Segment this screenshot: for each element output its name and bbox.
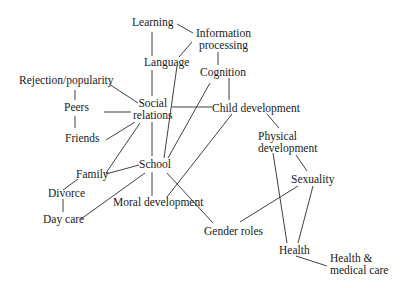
node-label: Rejection/popularity [19,74,114,86]
node-physical-development: Physical development [258,130,317,154]
edge-social-relations-family [106,123,140,173]
node-sexuality: Sexuality [291,173,334,185]
edge-cognition-school [168,83,210,158]
node-rejection-popularity: Rejection/popularity [19,74,114,86]
edge-child-development-moral-development [167,114,232,197]
concept-diagram: Learning Information processing Language… [0,0,401,288]
node-label: Sexuality [291,173,334,185]
node-label-line1: Physical [258,130,317,142]
node-label: Family [76,168,109,180]
edge-physical-development-health [273,153,287,243]
node-label-line2: processing [196,39,251,51]
node-information-processing: Information processing [196,27,251,51]
node-label: School [139,158,171,170]
node-language: Language [144,56,189,68]
edge-sexuality-gender-roles [240,186,298,222]
edge-sexuality-health [298,186,313,243]
node-social-relations: Social relations [133,97,173,121]
node-label-line1: Information [196,27,251,39]
node-label: Learning [132,16,174,28]
node-day-care: Day care [43,213,84,225]
node-label: Day care [43,213,84,225]
node-label: Cognition [200,66,246,78]
node-peers: Peers [64,101,89,113]
node-label: Divorce [48,187,85,199]
node-label: Peers [64,101,89,113]
node-label-line1: Social [133,97,173,109]
node-school: School [139,158,171,170]
edge-physical-development-sexuality [296,155,307,171]
edge-information-processing-school [179,42,192,57]
node-label-line1: Health & [330,252,388,264]
node-label: Health [279,244,310,256]
node-gender-roles: Gender roles [204,225,263,237]
node-label-line2: medical care [330,264,388,276]
node-label-line2: development [258,142,317,154]
node-label: Gender roles [204,225,263,237]
node-label: Language [144,56,189,68]
node-label: Friends [65,132,100,144]
edge-health-health-medical-care [296,256,327,266]
node-cognition: Cognition [200,66,246,78]
node-label: Moral development [113,196,203,208]
node-label: Child development [212,102,300,114]
node-health-medical-care: Health & medical care [330,252,388,276]
node-learning: Learning [132,16,174,28]
edge-learning-information-processing [177,24,193,33]
node-child-development: Child development [212,102,300,114]
node-health: Health [279,244,310,256]
edge-child-development-physical-development [267,114,279,128]
node-friends: Friends [65,132,100,144]
node-label-line2: relations [133,109,173,121]
node-moral-development: Moral development [113,196,203,208]
node-divorce: Divorce [48,187,85,199]
node-family: Family [76,168,109,180]
